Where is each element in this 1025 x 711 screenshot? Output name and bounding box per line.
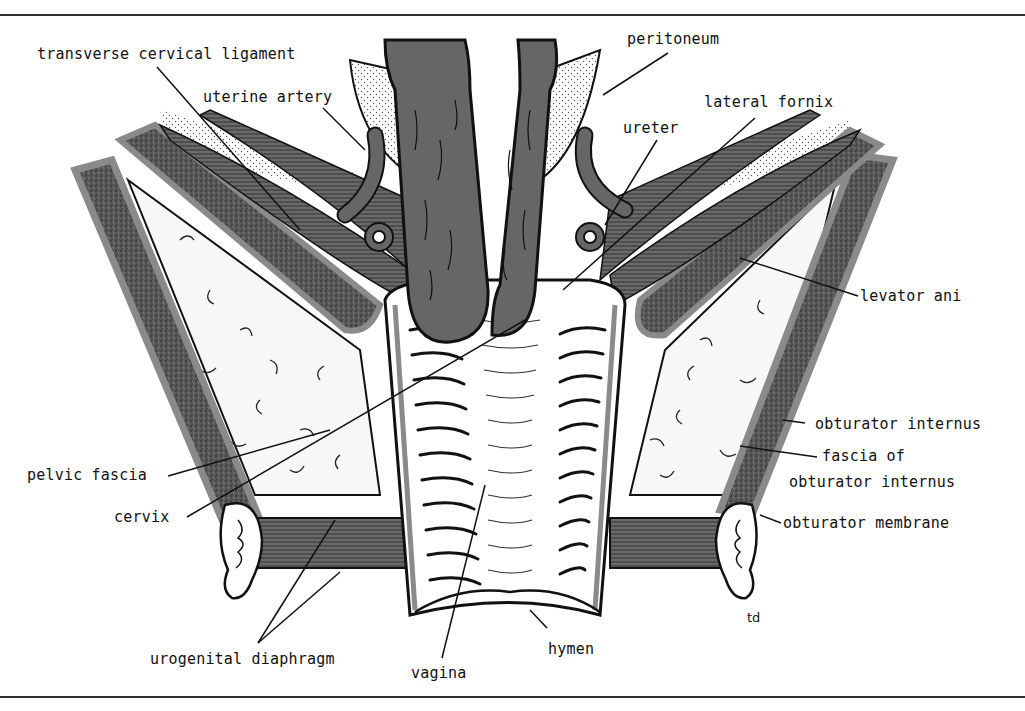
label-ureter: ureter bbox=[623, 119, 678, 137]
label-peritoneum: peritoneum bbox=[627, 30, 719, 48]
label-hymen: hymen bbox=[548, 640, 594, 658]
label-urogenital-diaphragm: urogenital diaphragm bbox=[150, 650, 335, 668]
label-fascia-of-obturator-internus-line2: obturator internus bbox=[789, 473, 955, 491]
label-levator-ani: levator ani bbox=[860, 287, 962, 305]
pelvis-diagram bbox=[0, 0, 1025, 711]
label-fascia-of-obturator-internus-line1: fascia of bbox=[822, 447, 905, 465]
label-transverse-cervical-ligament: transverse cervical ligament bbox=[37, 45, 295, 63]
label-obturator-membrane: obturator membrane bbox=[783, 514, 949, 532]
label-lateral-fornix: lateral fornix bbox=[704, 93, 833, 111]
label-obturator-internus: obturator internus bbox=[815, 415, 981, 433]
cervix bbox=[385, 40, 557, 342]
artist-signature: td bbox=[747, 610, 760, 625]
label-pelvic-fascia: pelvic fascia bbox=[27, 466, 147, 484]
label-uterine-artery: uterine artery bbox=[203, 88, 332, 106]
label-vagina: vagina bbox=[411, 664, 466, 682]
label-cervix: cervix bbox=[114, 508, 169, 526]
